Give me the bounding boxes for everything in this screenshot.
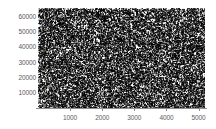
- y-tick-label: 40000: [2, 43, 36, 50]
- x-tick-mark: [102, 109, 103, 111]
- x-tick-label: 2000: [95, 114, 109, 121]
- scatter-plot-figure: 100002000030000400005000060000 100020003…: [0, 0, 216, 129]
- x-tick-mark: [199, 109, 200, 111]
- x-tick-label: 4000: [159, 114, 173, 121]
- y-axis-tick-labels: 100002000030000400005000060000: [0, 0, 36, 129]
- x-axis-tick-labels: 10002000300040005000: [0, 114, 216, 126]
- y-tick-label: 60000: [2, 13, 36, 20]
- x-tick-mark: [166, 109, 167, 111]
- scatter-points-canvas: [38, 8, 205, 108]
- plot-area: [38, 8, 205, 108]
- x-tick-mark: [70, 109, 71, 111]
- x-tick-label: 1000: [63, 114, 77, 121]
- x-tick-label: 3000: [127, 114, 141, 121]
- y-tick-label: 30000: [2, 59, 36, 66]
- x-tick-label: 5000: [192, 114, 206, 121]
- x-axis-line: [36, 108, 207, 109]
- y-tick-label: 20000: [2, 74, 36, 81]
- x-tick-mark: [134, 109, 135, 111]
- y-tick-label: 50000: [2, 28, 36, 35]
- y-tick-label: 10000: [2, 89, 36, 96]
